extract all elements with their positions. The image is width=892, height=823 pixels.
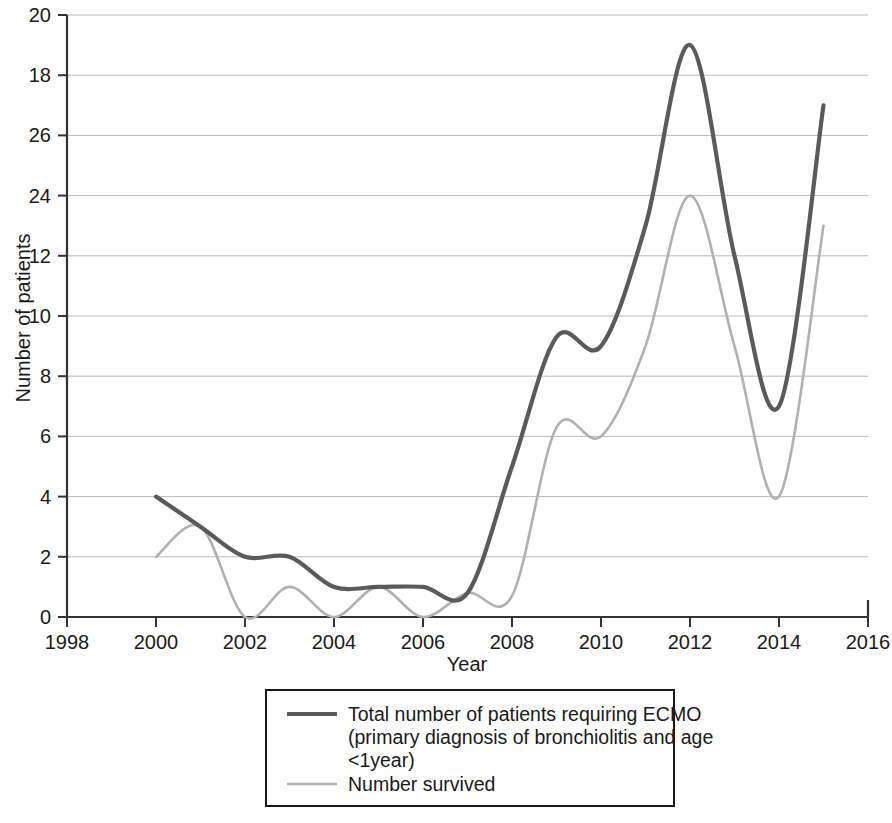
y-tick-label: 8 <box>40 365 51 387</box>
y-axis-title: Number of patients <box>12 234 34 403</box>
x-axis-ticks <box>67 617 868 627</box>
x-tick-label: 2004 <box>312 631 357 653</box>
x-tick-label: 1998 <box>45 631 90 653</box>
y-tick-label: 24 <box>29 185 51 207</box>
y-tick-label: 26 <box>29 124 51 146</box>
x-tick-label: 2010 <box>579 631 624 653</box>
x-axis-tick-labels: 1998200020022004200620082010201220142016 <box>45 631 891 653</box>
x-tick-label: 2014 <box>757 631 802 653</box>
y-axis-ticks <box>58 15 67 617</box>
series-line-total-ecmo <box>156 45 824 601</box>
y-tick-label: 6 <box>40 425 51 447</box>
y-tick-label: 4 <box>40 486 51 508</box>
series-line-number-survived <box>156 196 824 619</box>
x-tick-label: 2008 <box>490 631 535 653</box>
x-tick-label: 2006 <box>401 631 446 653</box>
legend-label-total-line3: <1year) <box>348 749 415 771</box>
x-tick-label: 2012 <box>668 631 713 653</box>
y-tick-label: 0 <box>40 606 51 628</box>
gridlines <box>67 15 868 557</box>
x-axis-title: Year <box>447 653 488 675</box>
y-tick-label: 2 <box>40 546 51 568</box>
x-tick-label: 2000 <box>134 631 179 653</box>
line-chart: 02468101224261820 1998200020022004200620… <box>0 0 892 823</box>
chart-figure: 02468101224261820 1998200020022004200620… <box>0 0 892 823</box>
legend-label-survived: Number survived <box>348 773 495 795</box>
x-tick-label: 2016 <box>846 631 891 653</box>
legend-label-total-line1: Total number of patients requiring ECMO <box>348 703 701 725</box>
x-tick-label: 2002 <box>223 631 268 653</box>
legend-label-total-line2: (primary diagnosis of bronchiolitis and … <box>348 726 713 748</box>
y-tick-label: 18 <box>29 64 51 86</box>
legend: Total number of patients requiring ECMO … <box>266 690 713 806</box>
y-tick-label: 20 <box>29 4 51 26</box>
